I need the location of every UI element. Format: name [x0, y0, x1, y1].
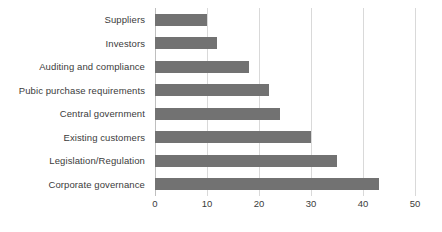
bar [155, 108, 280, 120]
x-tick-label: 0 [152, 198, 157, 209]
value-axis-labels: 01020304050 [155, 198, 415, 218]
bar-row [155, 8, 415, 32]
bar [155, 84, 269, 96]
bar [155, 37, 217, 49]
x-tick-label: 30 [306, 198, 317, 209]
bar-series [155, 8, 415, 196]
bar-chart: Suppliers Investors Auditing and complia… [0, 0, 442, 232]
bar-row [155, 32, 415, 56]
category-axis-labels: Suppliers Investors Auditing and complia… [0, 8, 151, 196]
gridline [415, 8, 416, 196]
x-tick-label: 50 [410, 198, 421, 209]
bar-row [155, 79, 415, 103]
bar [155, 131, 311, 143]
bar [155, 155, 337, 167]
bar [155, 178, 379, 190]
category-label: Investors [0, 32, 151, 56]
category-label: Auditing and compliance [0, 55, 151, 79]
category-label: Corporate governance [0, 173, 151, 197]
x-tick-label: 10 [202, 198, 213, 209]
category-label: Pubic purchase requirements [0, 79, 151, 103]
bar-row [155, 173, 415, 197]
category-label: Legislation/Regulation [0, 149, 151, 173]
category-label: Existing customers [0, 126, 151, 150]
x-tick-label: 20 [254, 198, 265, 209]
bar-row [155, 55, 415, 79]
plot-area [155, 8, 415, 196]
bar [155, 61, 249, 73]
category-label: Central government [0, 102, 151, 126]
category-label: Suppliers [0, 8, 151, 32]
bar-row [155, 126, 415, 150]
bar [155, 14, 207, 26]
bar-row [155, 149, 415, 173]
x-tick-label: 40 [358, 198, 369, 209]
bar-row [155, 102, 415, 126]
